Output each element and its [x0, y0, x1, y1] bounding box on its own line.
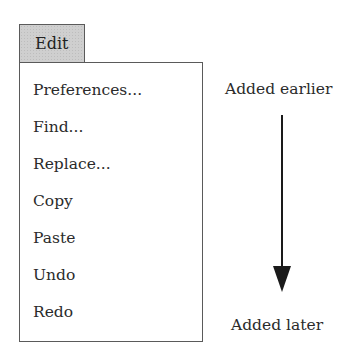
edit-menu-tab[interactable]: Edit [19, 24, 85, 62]
edit-menu-dropdown: Preferences... Find... Replace... Copy P… [19, 62, 203, 342]
menu-item-find[interactable]: Find... [33, 118, 83, 136]
arrow-down-icon [281, 115, 283, 270]
edit-menu-title: Edit [35, 34, 68, 53]
menu-item-replace[interactable]: Replace... [33, 155, 111, 173]
arrow-head-icon [273, 266, 291, 292]
menu-item-undo[interactable]: Undo [33, 266, 75, 284]
menu-item-copy[interactable]: Copy [33, 192, 73, 210]
menu-item-preferences[interactable]: Preferences... [33, 81, 142, 99]
menu-item-redo[interactable]: Redo [33, 303, 73, 321]
added-later-label: Added later [231, 316, 323, 334]
menu-item-paste[interactable]: Paste [33, 229, 75, 247]
added-earlier-label: Added earlier [225, 80, 332, 98]
